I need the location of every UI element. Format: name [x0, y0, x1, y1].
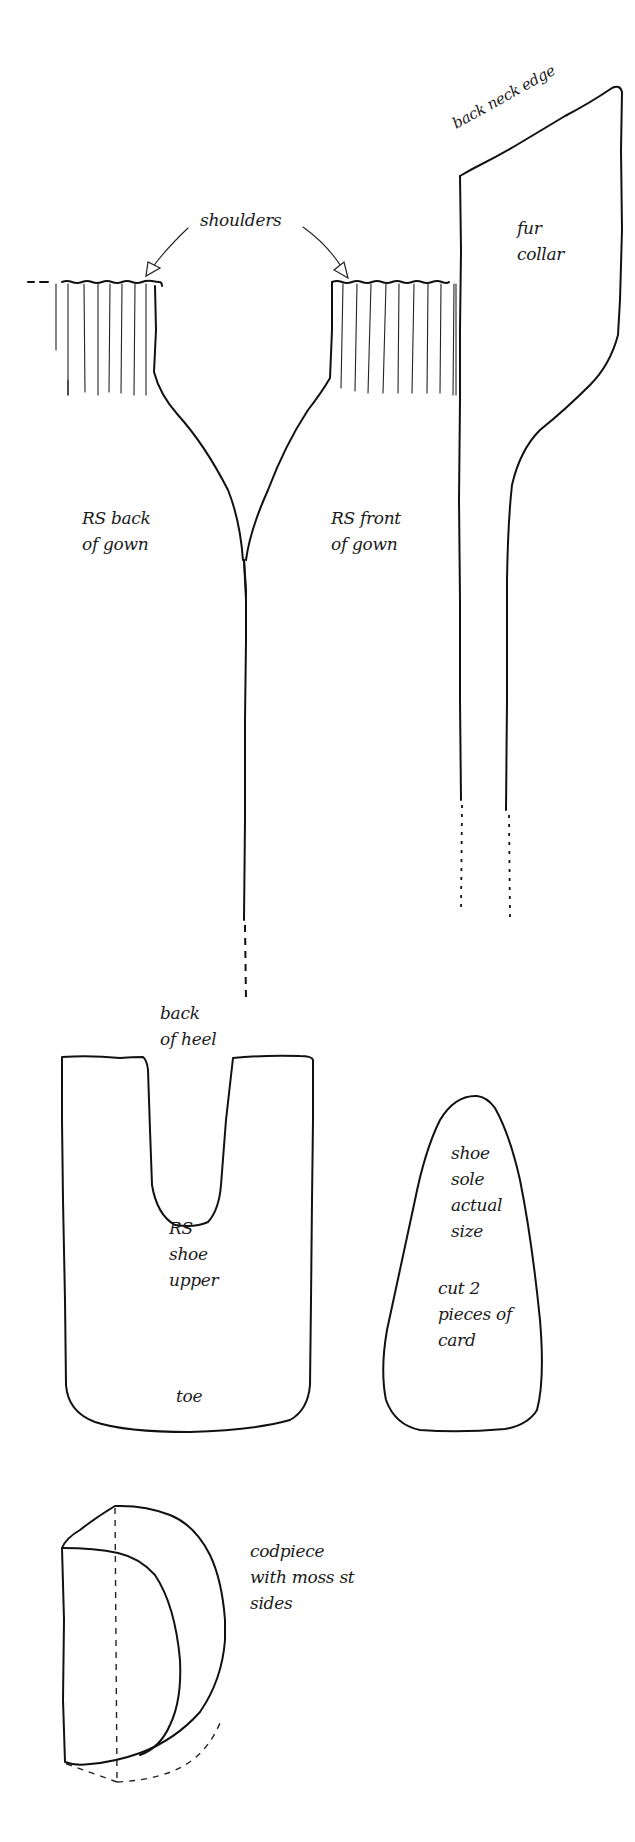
- back-of-heel-label: back of heel: [160, 1000, 216, 1052]
- shoulders-label: shoulders: [200, 207, 281, 233]
- gown-centre-seam: [244, 560, 246, 1000]
- gown-back-label: RS back of gown: [82, 505, 151, 557]
- gown-front-label: RS front of gown: [331, 505, 401, 557]
- shoulders-arrows: [146, 227, 348, 278]
- shoe-upper-label: RS shoe upper: [169, 1215, 218, 1293]
- shoe-sole-label: shoe sole actual size: [451, 1140, 502, 1244]
- fur-collar-label: fur collar: [517, 215, 564, 267]
- fur-collar-piece: [456, 87, 622, 918]
- toe-label: toe: [176, 1383, 202, 1409]
- codpiece-piece: [62, 1506, 225, 1782]
- codpiece-label: codpiece with moss st sides: [250, 1538, 354, 1616]
- cut-note-label: cut 2 pieces of card: [438, 1275, 512, 1353]
- pattern-diagram: back neck edge fur collar shoulders RS b…: [0, 0, 635, 1842]
